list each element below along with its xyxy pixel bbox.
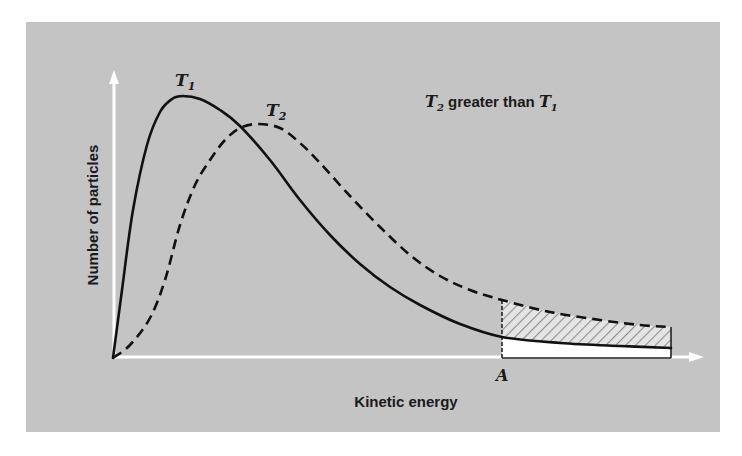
y-axis-title: Number of particles: [84, 145, 101, 286]
maxwell-boltzmann-chart: T1 T2 T2 greater than T1 A Kinetic energ…: [0, 0, 742, 456]
x-axis-title: Kinetic energy: [354, 393, 458, 410]
annotation-t2-greater-than-t1: T2 greater than T1: [425, 92, 558, 113]
marker-a-label: A: [494, 366, 508, 385]
